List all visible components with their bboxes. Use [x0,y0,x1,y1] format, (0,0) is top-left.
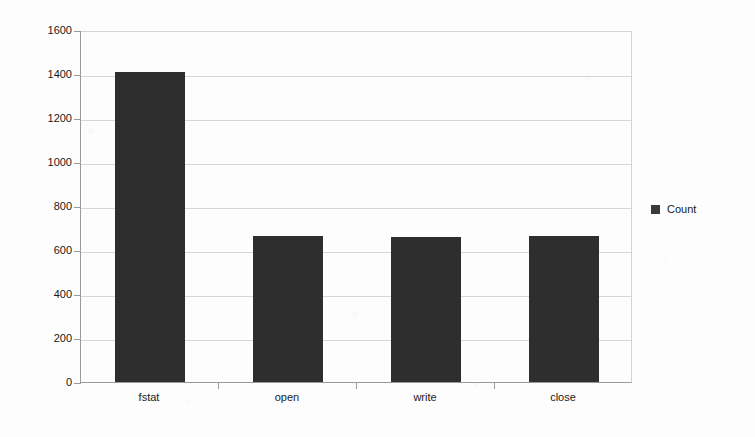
x-tick-label: write [356,392,494,403]
plot-area [80,31,632,383]
bar [391,237,461,382]
bar [529,236,599,382]
legend: Count [651,204,696,215]
x-tick-label: fstat [80,392,218,403]
y-tick-label: 1400 [26,69,72,80]
legend-label-count: Count [667,204,696,215]
y-tick-label: 400 [26,289,72,300]
y-tick-mark [74,383,81,384]
x-tick-label: open [218,392,356,403]
y-tick-label: 800 [26,201,72,212]
bar-chart: 02004006008001000120014001600 fstatopenw… [0,0,755,437]
x-tick-mark [218,383,219,389]
y-tick-mark [74,119,81,120]
y-axis: 02004006008001000120014001600 [26,0,72,437]
y-tick-label: 600 [26,245,72,256]
bar [115,72,185,382]
y-tick-mark [74,163,81,164]
legend-swatch-count [651,205,660,214]
bar [253,236,323,382]
y-tick-label: 200 [26,333,72,344]
y-tick-mark [74,295,81,296]
y-tick-mark [74,75,81,76]
y-tick-mark [74,339,81,340]
y-tick-mark [74,251,81,252]
x-tick-mark [356,383,357,389]
y-tick-label: 1000 [26,157,72,168]
y-tick-mark [74,207,81,208]
y-tick-label: 0 [26,377,72,388]
y-tick-label: 1200 [26,113,72,124]
x-tick-mark [494,383,495,389]
y-tick-label: 1600 [26,25,72,36]
y-tick-mark [74,31,81,32]
x-tick-label: close [494,392,632,403]
